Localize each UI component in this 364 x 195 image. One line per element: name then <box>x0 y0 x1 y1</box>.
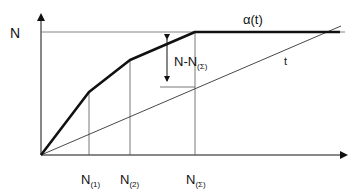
x-tick-nsigma: N(Σ) <box>186 173 206 189</box>
x-tick-nsigma-sub: (Σ) <box>195 180 205 189</box>
y-axis-label: N <box>10 26 20 40</box>
x-tick-nsigma-main: N <box>186 172 195 187</box>
x-tick-n1-sub: (1) <box>90 180 100 189</box>
x-tick-n2-sub: (2) <box>129 180 139 189</box>
t-line <box>41 26 341 155</box>
alpha-curve-label: α(t) <box>243 13 263 26</box>
alpha-curve <box>41 32 340 155</box>
t-line-label: t <box>284 56 287 67</box>
x-tick-n1-main: N <box>81 172 90 187</box>
difference-label: N-N(Σ) <box>174 55 207 71</box>
x-tick-n1: N(1) <box>81 173 100 189</box>
x-tick-n2: N(2) <box>120 173 139 189</box>
difference-label-main: N-N <box>174 54 197 69</box>
difference-label-sub: (Σ) <box>197 62 207 71</box>
x-tick-n2-main: N <box>120 172 129 187</box>
diagram-canvas <box>0 0 364 195</box>
